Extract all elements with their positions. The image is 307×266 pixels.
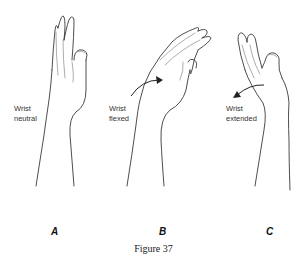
hand-illustrations <box>0 0 307 266</box>
hand-neutral-drawing <box>36 16 87 186</box>
panel-letter-b: B <box>159 226 166 237</box>
hand-flexed-drawing <box>127 27 211 186</box>
figure-caption: Figure 37 <box>0 243 307 254</box>
label-wrist-extended: Wrist extended <box>226 104 257 124</box>
panel-letter-a: A <box>51 226 58 237</box>
label-wrist-neutral: Wrist neutral <box>14 104 37 124</box>
label-wrist-flexed: Wrist flexed <box>109 104 129 124</box>
panel-letter-c: C <box>266 226 273 237</box>
